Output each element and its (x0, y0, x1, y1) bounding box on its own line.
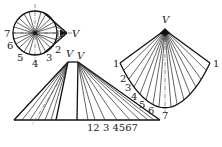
front-inner-right (77, 62, 78, 120)
front-left-edge (14, 62, 68, 120)
dev-label-4: 4 (131, 91, 137, 102)
plan-label-1: 1 (58, 28, 64, 39)
plan-label-3: 3 (46, 52, 52, 63)
front-left-elements (22, 62, 68, 120)
circle-center-dot (33, 31, 37, 35)
plan-label-7: 7 (4, 28, 10, 39)
front-apex-label-right: V (77, 50, 86, 61)
plan-label-6: 6 (7, 40, 13, 51)
plan-apex-label: V (72, 28, 81, 39)
dev-label-5: 5 (139, 99, 145, 110)
front-baseline-labels: 12 3 4567 (87, 122, 138, 133)
plan-label-2: 2 (55, 44, 61, 55)
plan-label-4: 4 (32, 58, 38, 69)
dev-label-6: 6 (148, 105, 154, 116)
dev-apex-label: V (162, 14, 171, 25)
plan-view: V 1 2 3 4 5 6 7 (4, 4, 81, 69)
dev-label-7: 7 (162, 110, 168, 121)
dev-left-end-label: 1 (113, 58, 119, 69)
plan-label-5: 5 (17, 52, 23, 63)
front-apex-label-left: V (66, 48, 75, 59)
development-view: V 1 1 2 3 4 5 6 7 (113, 14, 219, 121)
cone-development-diagram: V 1 2 3 4 5 6 7 (0, 0, 222, 147)
dev-right-end-label: 1 (213, 58, 219, 69)
